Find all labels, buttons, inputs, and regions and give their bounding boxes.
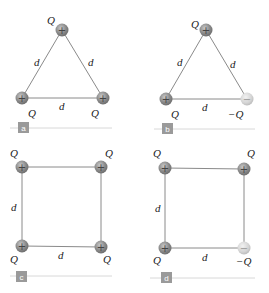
plus-icon: + — [18, 162, 26, 173]
charge-bottom-left: + — [159, 242, 172, 255]
side-label-bottom: d — [202, 251, 208, 263]
panel-c: + + + + Q Q Q Q d d c — [10, 147, 113, 282]
charge-label-top-left: Q — [10, 147, 18, 159]
panel-d: + + + − Q Q Q −Q d d d — [150, 147, 255, 283]
side-label-left: d — [155, 202, 161, 214]
charge-label-bottom-right: Q — [103, 253, 111, 265]
charge-top: + — [200, 24, 213, 37]
panel-b: + + − Q Q −Q d d d b — [154, 18, 255, 134]
side-left — [22, 30, 62, 98]
charge-label-top-right: Q — [105, 147, 113, 159]
panel-tag-label: d — [164, 274, 168, 283]
plus-icon: + — [18, 241, 26, 252]
panel-tag-label: c — [20, 273, 24, 282]
charge-bottom-right: − — [238, 242, 251, 255]
charge-label-top-right: Q — [247, 147, 255, 159]
charge-bottom-right: + — [97, 92, 110, 105]
charge-top-right: + — [238, 163, 251, 176]
charge-label-bottom-left: Q — [171, 108, 179, 120]
charge-label-top: Q — [47, 14, 55, 26]
minus-icon: − — [243, 94, 251, 105]
charge-bottom-left: + — [16, 92, 29, 105]
charge-bottom-right: − — [241, 93, 254, 106]
plus-icon: + — [240, 164, 248, 175]
charge-label-bottom-right: −Q — [236, 255, 251, 267]
side-label-right: d — [230, 58, 236, 70]
side-left — [166, 30, 206, 99]
plus-icon: + — [18, 93, 26, 104]
panel-tag-label: a — [21, 124, 26, 133]
charge-bottom-left: + — [16, 240, 29, 253]
charge-label-top: Q — [191, 18, 199, 30]
charge-bottom-right: + — [95, 241, 108, 254]
side-label-left: d — [34, 56, 40, 68]
plus-icon: + — [97, 242, 105, 253]
side-top — [165, 168, 244, 169]
side-right — [206, 30, 247, 99]
charge-label-bottom-right: −Q — [228, 108, 243, 120]
plus-icon: + — [97, 162, 105, 173]
charge-bottom-left: + — [160, 93, 173, 106]
side-bottom — [22, 246, 101, 247]
charge-top-left: + — [159, 162, 172, 175]
plus-icon: + — [161, 163, 169, 174]
charge-label-bottom-left: Q — [28, 107, 36, 119]
charge-top-right: + — [95, 161, 108, 174]
side-label-bottom: d — [59, 100, 65, 112]
side-label-bottom: d — [58, 249, 64, 261]
charge-top-left: + — [16, 161, 29, 174]
panel-a: + + + Q Q Q d d d a — [10, 14, 112, 133]
side-label-right: d — [88, 56, 94, 68]
plus-icon: + — [161, 243, 169, 254]
side-label-bottom: d — [202, 101, 208, 113]
side-right — [62, 30, 103, 98]
plus-icon: + — [99, 93, 107, 104]
charge-label-bottom-left: Q — [10, 253, 18, 265]
side-label-left: d — [11, 201, 17, 213]
charge-top: + — [56, 24, 69, 37]
charge-configurations-diagram: + + + Q Q Q d d d a + + — [0, 0, 269, 293]
panel-tag-label: b — [165, 125, 170, 134]
side-label-left: d — [177, 56, 183, 68]
charge-label-bottom-left: Q — [153, 254, 161, 266]
charge-label-bottom-right: Q — [91, 107, 99, 119]
plus-icon: + — [162, 94, 170, 105]
minus-icon: − — [240, 243, 248, 254]
plus-icon: + — [202, 25, 210, 36]
charge-label-top-left: Q — [153, 147, 161, 159]
plus-icon: + — [58, 25, 66, 36]
